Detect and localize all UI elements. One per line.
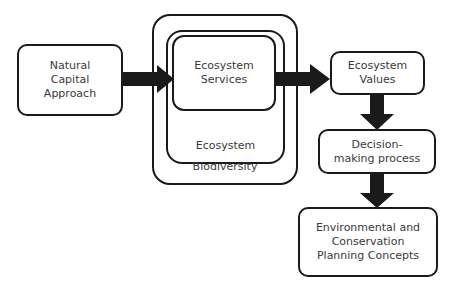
arrow-right-icon [275,64,330,94]
arrow-down-icon [360,94,394,130]
arrow-down-icon [360,173,394,208]
arrows-layer [0,0,451,291]
arrow-right-icon [122,65,174,93]
